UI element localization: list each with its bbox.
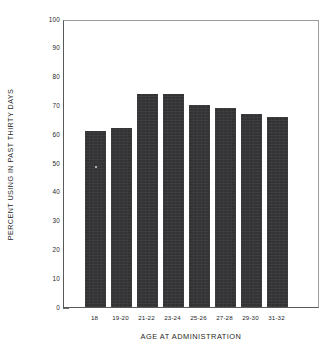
y-axis-title-container: PERCENT USING IN PAST THIRTY DAYS [0, 20, 22, 308]
bar [85, 131, 106, 307]
y-axis-tick-label: 80 [26, 73, 60, 80]
y-axis-tick-label-container: 90 [22, 44, 60, 54]
y-axis-tick-label: 0 [26, 304, 60, 311]
plot-area [63, 20, 319, 308]
y-axis-tick-label: 50 [26, 160, 60, 167]
bar-chart-figure: PERCENT USING IN PAST THIRTY DAYS 100908… [0, 0, 334, 358]
y-axis-tick-label-container: 40 [22, 188, 60, 198]
y-axis-tick-label-container: 50 [22, 160, 60, 170]
y-axis-tick-label-container: 30 [22, 217, 60, 227]
y-axis-tick-label-container: 60 [22, 131, 60, 141]
bar [267, 117, 288, 307]
y-axis-tick-label: 40 [26, 188, 60, 195]
y-axis-tick-label: 10 [26, 275, 60, 282]
y-axis-tick-label: 30 [26, 217, 60, 224]
bar [241, 114, 262, 307]
y-axis-tick-label: 100 [26, 16, 60, 23]
bar [163, 94, 184, 307]
y-axis-title: PERCENT USING IN PAST THIRTY DAYS [7, 88, 16, 240]
y-axis-tick-label: 70 [26, 102, 60, 109]
y-axis-tick-label-container: 70 [22, 102, 60, 112]
y-axis-tick-label: 60 [26, 131, 60, 138]
bar [215, 108, 236, 307]
x-axis-title: AGE AT ADMINISTRATION [63, 332, 319, 341]
bar [111, 128, 132, 307]
bar [137, 94, 158, 307]
y-axis-tick-label-container: 80 [22, 73, 60, 83]
x-axis-tick-label: 31-32 [257, 314, 297, 321]
bar [189, 105, 210, 307]
y-axis-tick-label: 90 [26, 44, 60, 51]
y-axis-tick-label-container: 100 [22, 16, 60, 26]
y-axis-tick-label-container: 0 [22, 304, 60, 314]
y-axis-tick [63, 308, 69, 309]
y-axis-tick-label-container: 10 [22, 275, 60, 285]
y-axis-tick-label: 20 [26, 246, 60, 253]
y-axis-tick-label-container: 20 [22, 246, 60, 256]
